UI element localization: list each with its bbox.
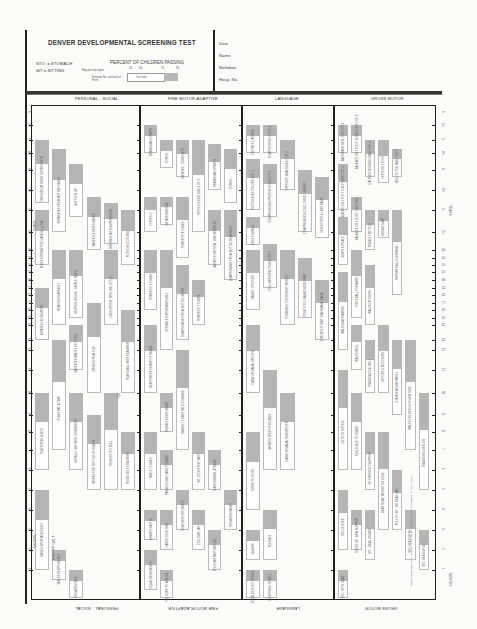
age-tick (432, 140, 436, 141)
field-name[interactable]: Name (219, 53, 230, 58)
test-item: STO. LIFTS HEAD (338, 570, 348, 598)
age-tick (331, 210, 335, 211)
item-label: IMITATES SPEECH SOUNDS (269, 414, 272, 450)
test-item: COMPREHENDS COLD, TIRED, HUNGRY (298, 170, 312, 232)
age-tick (331, 570, 335, 571)
item-label: HANDS TOGETHER (165, 522, 168, 547)
test-item: USES SPOON, SPILLING LITTLE (104, 250, 118, 325)
age-tick (239, 232, 243, 233)
age-tick (331, 140, 335, 141)
age-tick (331, 470, 335, 471)
age-tick (331, 490, 335, 491)
age-label-left: 3 (27, 208, 31, 210)
age-label-right: 22 (441, 263, 445, 266)
age-tick (137, 190, 141, 191)
field-date[interactable]: Date (219, 41, 228, 46)
test-item: THROWS BALL OVERHAND (392, 210, 402, 295)
test-item: POINTS TO 1 NAMED BODY PART (298, 258, 312, 318)
age-label-right: 2½ (441, 230, 445, 234)
test-item: IMITATES HOUSEWORK (35, 288, 49, 340)
item-label: IMITATES □ DEMONSTR. (181, 147, 184, 178)
age-tick (137, 280, 141, 281)
field-birthdate[interactable]: Birthdate (219, 65, 236, 70)
age-tick (239, 153, 243, 154)
age-label-right: 10 (441, 391, 445, 394)
item-label: THUMB-FINGER GRASP (165, 402, 168, 433)
item-label: STANDS ALONE WELL (369, 359, 372, 387)
item-label: DUMPS RAISIN FROM BOTTLE-SPONT. (181, 287, 184, 337)
age-tick (331, 350, 335, 351)
test-item: STANDS HOLDING ON (419, 393, 429, 490)
axis-months-label-right: MONTHS (448, 573, 452, 586)
age-tick (137, 550, 141, 551)
age-tick (137, 530, 141, 531)
age-tick (239, 310, 243, 311)
age-tick (239, 125, 243, 126)
item-label: BALANCE ON 1 FOOT 5 SECONDS 2 OF 3 (342, 166, 345, 219)
age-tick (137, 318, 141, 319)
age-tick (137, 250, 141, 251)
age-label-left: 18 (27, 293, 31, 296)
age-label-left: 12 (27, 348, 31, 351)
age-tick (331, 153, 335, 154)
item-75-90-shade (246, 325, 260, 351)
item-label: DADA OR MAMA, SPECIFIC (252, 350, 255, 385)
divider-fm-lang (241, 105, 243, 600)
item-label: WASHES & DRIES HANDS (92, 213, 95, 246)
item-label: COPIES O (149, 212, 152, 225)
test-item: DUMPS RAISIN FROM BOTTLE-SPONT. (176, 265, 189, 340)
age-tick (137, 232, 141, 233)
age-label-right: 9 (441, 413, 445, 415)
age-tick (137, 450, 141, 451)
test-item: JUMPS IN PLACE (338, 217, 348, 265)
item-label: PUTS ON CLOTHING (126, 231, 129, 258)
age-tick (239, 280, 243, 281)
item-label: PASSES CUBE HAND TO HAND (165, 455, 168, 495)
age-tick (239, 140, 243, 141)
age-label-left: 5 (27, 488, 31, 490)
item-75-90-shade (224, 149, 237, 170)
field-hosp-no[interactable]: Hosp. No. (219, 77, 238, 82)
item-75-90-shade (35, 393, 49, 422)
test-item: WALKS WELL (351, 325, 361, 370)
age-label-left: 4½ (27, 151, 31, 155)
item-label: WALKS UP STEPS (369, 291, 372, 314)
item-label: CATCHES BOUNCED BALL 2 OF 3 (369, 141, 372, 184)
age-tick (331, 125, 335, 126)
age-label-left: 2½ (27, 230, 31, 234)
item-75-90-shade (280, 393, 294, 422)
test-item: STANDS ALONE WELL (365, 340, 375, 393)
age-tick (331, 190, 335, 191)
test-item: BALANCE ON 1 FOOT 1 SECOND (351, 197, 361, 232)
test-item: BEAR SOME WEIGHT ON LEGS (378, 432, 388, 530)
copyright: ©1969, William K. Frankenburg, M.D. and … (410, 475, 413, 586)
age-tick (432, 570, 436, 571)
age-tick (432, 190, 436, 191)
item-label: SMILES SPONTANEOUSLY (41, 523, 44, 557)
test-item: REACHES FOR OBJECT (176, 490, 189, 530)
item-75-90-shade (338, 490, 348, 513)
item-label: BALANCE ON 1 FOOT 10 SECONDS 2 OF 3 (355, 115, 358, 169)
age-tick (331, 370, 335, 371)
item-label: DRESSES WITHOUT SUPERVISION (41, 157, 44, 202)
axis-months-label-left: MONTHS (32, 535, 36, 548)
age-tick (137, 510, 141, 511)
test-item: REGARDS RAISIN (224, 490, 237, 530)
item-label: INITIALLY SHY WITH STRANGERS (75, 419, 78, 462)
age-label-right: 15 (441, 316, 445, 319)
item-label: PLAYS PEEK-A-BOO (41, 428, 44, 454)
ps-50pct-note: 50% (116, 393, 119, 398)
abbrev-stomach: STO. = STOMACH (36, 61, 72, 66)
item-label: IMITATES HOUSEWORK (41, 305, 44, 336)
test-item: BALANCE ON 1 FOOT 10 SECONDS 2 OF 3 (351, 125, 361, 153)
age-label-right: 4 (441, 508, 445, 510)
age-label-right: 3 (441, 208, 445, 210)
test-item: DRINKS FROM CUP (87, 303, 101, 393)
item-label: NEAT PINCER GRASP OF RAISIN (149, 346, 152, 388)
item-label: RESPONDS TO BELL (269, 574, 272, 601)
item-label: REGARDS FACE (75, 577, 78, 598)
test-item: CATCHES BOUNCED BALL 2 OF 3 (365, 140, 375, 177)
test-item: DRESSES WITHOUT SUPERVISION (35, 140, 49, 203)
item-label: GETS TO SITTING (342, 420, 345, 443)
age-label-left: 10 (27, 391, 31, 394)
